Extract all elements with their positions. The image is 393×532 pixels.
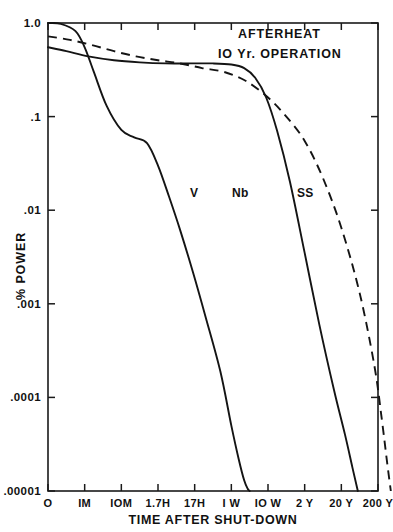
- axis-ticks: [48, 23, 378, 491]
- series-label-v: V: [190, 186, 198, 200]
- y-tick-label: .00001: [0, 485, 41, 497]
- curve-v: [48, 23, 250, 491]
- x-tick-label: I W: [222, 497, 240, 509]
- x-tick-label: IO W: [255, 497, 282, 509]
- x-tick-label: IM: [78, 497, 91, 509]
- chart-subtitle: IO Yr. OPERATION: [218, 47, 342, 61]
- curve-nb: [48, 47, 358, 491]
- y-axis-title: % POWER: [14, 232, 28, 300]
- chart-title: AFTERHEAT: [238, 27, 321, 41]
- y-tick-label: .1: [0, 111, 41, 123]
- y-tick-label: 1.0: [0, 17, 41, 29]
- x-tick-label: 20 Y: [329, 497, 353, 509]
- curve-ss: [48, 36, 391, 491]
- series-label-ss: SS: [297, 186, 314, 200]
- x-tick-label: O: [44, 497, 53, 509]
- y-tick-label: .0001: [0, 391, 41, 403]
- x-tick-label: IOM: [110, 497, 132, 509]
- data-curves: [48, 23, 391, 491]
- x-tick-label: 2 Y: [296, 497, 314, 509]
- x-tick-label: 1.7H: [146, 497, 171, 509]
- y-tick-label: .01: [0, 204, 41, 216]
- x-tick-label: 17H: [184, 497, 205, 509]
- x-axis-title: TIME AFTER SHUT-DOWN: [128, 513, 297, 527]
- axes-frame: [48, 23, 378, 491]
- series-label-nb: Nb: [232, 186, 249, 200]
- x-tick-label: 200 Y: [363, 497, 393, 509]
